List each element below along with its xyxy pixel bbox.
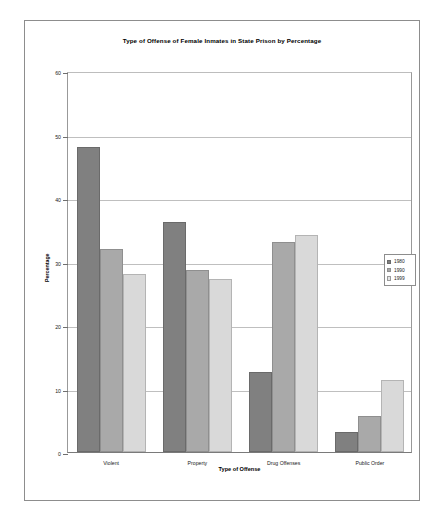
bar — [100, 249, 123, 452]
y-axis-tick-label: 30 — [55, 261, 61, 267]
legend-item: 1980 — [387, 258, 413, 266]
bar — [163, 222, 186, 453]
legend-item: 1999 — [387, 274, 413, 282]
bar — [335, 432, 358, 452]
chart-frame: Type of Offense of Female Inmates in Sta… — [24, 20, 420, 501]
bar — [272, 242, 295, 452]
legend-label: 1980 — [394, 259, 405, 264]
legend-swatch — [387, 268, 391, 272]
y-axis-tick — [63, 454, 68, 455]
plot-area: 0102030405060 ViolentPropertyDrug Offens… — [67, 72, 412, 453]
bar — [249, 372, 272, 452]
y-axis-tick-label: 20 — [55, 324, 61, 330]
bar — [77, 147, 100, 452]
y-axis-tick-label: 60 — [55, 70, 61, 76]
bar-group — [154, 73, 240, 452]
bar — [186, 270, 209, 452]
legend-swatch — [387, 276, 391, 280]
legend-label: 1999 — [394, 276, 405, 281]
bar-group — [241, 73, 327, 452]
bar — [123, 274, 146, 452]
bar-group — [68, 73, 154, 452]
legend-swatch — [387, 260, 391, 264]
y-axis-tick-label: 40 — [55, 197, 61, 203]
clipped-caption — [0, 519, 445, 526]
bar — [209, 279, 232, 452]
chart-legend: 198019901999 — [384, 254, 416, 286]
y-axis-tick-label: 0 — [58, 451, 61, 457]
chart-title: Type of Offense of Female Inmates in Sta… — [25, 37, 419, 44]
legend-label: 1990 — [394, 268, 405, 273]
y-axis-tick-label: 50 — [55, 134, 61, 140]
bar — [295, 235, 318, 452]
y-axis-title: Percentage — [44, 253, 50, 282]
bar — [358, 416, 381, 452]
bar — [381, 380, 404, 452]
y-axis-tick-label: 10 — [55, 388, 61, 394]
legend-item: 1990 — [387, 266, 413, 274]
x-axis-title: Type of Offense — [67, 466, 412, 472]
